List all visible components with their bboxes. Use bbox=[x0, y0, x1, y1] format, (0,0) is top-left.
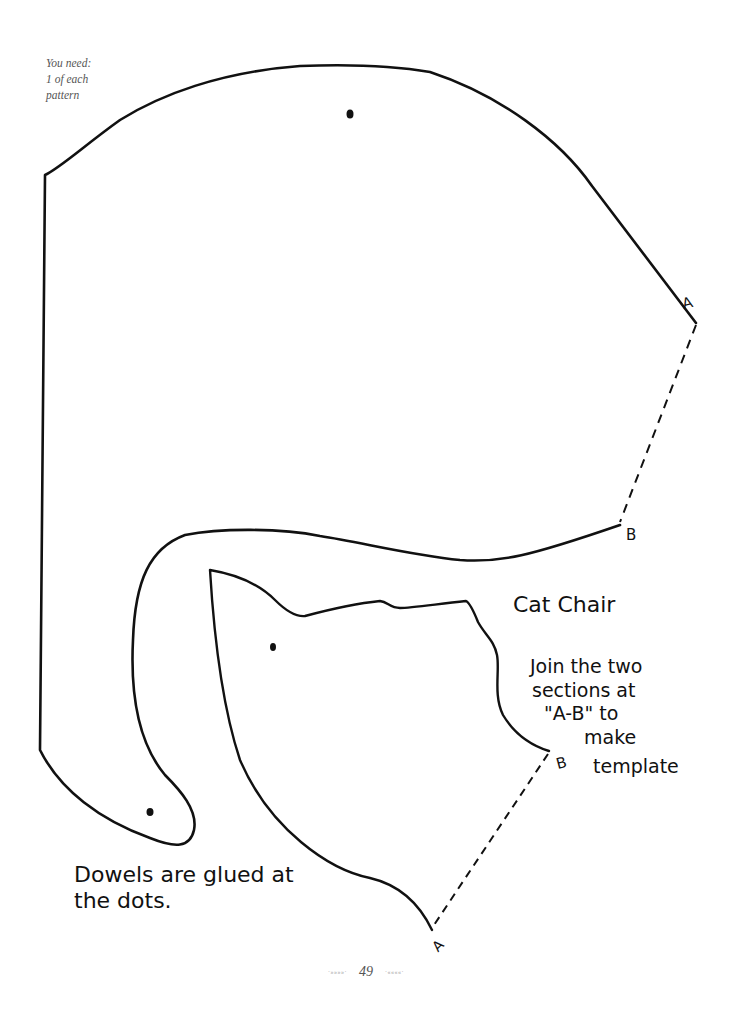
instruction-line: sections at bbox=[532, 679, 635, 701]
page-footer: ·»»»»· 49 ·««««· bbox=[0, 962, 732, 980]
pattern-page: You need: 1 of each pattern A B B A Cat … bbox=[0, 0, 732, 1009]
page-number: 49 bbox=[359, 964, 373, 979]
dowel-dot bbox=[347, 110, 354, 119]
large-join-line bbox=[620, 325, 696, 522]
pattern-drawing: A B B A Cat Chair Join the two sections … bbox=[0, 0, 732, 1009]
instruction-line: make bbox=[584, 726, 636, 748]
dowel-note-line: the dots. bbox=[74, 888, 172, 913]
instruction-line: Join the two bbox=[529, 655, 642, 677]
pattern-title: Cat Chair bbox=[513, 592, 616, 617]
dowel-note-line: Dowels are glued at bbox=[74, 862, 294, 887]
instruction-line: template bbox=[593, 755, 679, 777]
small-join-line bbox=[432, 754, 548, 928]
large-label-a: A bbox=[680, 293, 695, 313]
dowel-dot bbox=[270, 643, 276, 651]
footer-ornament-right: ·««««· bbox=[385, 969, 404, 975]
small-label-a: A bbox=[429, 936, 447, 954]
footer-ornament-left: ·»»»»· bbox=[328, 969, 347, 975]
large-label-b: B bbox=[626, 526, 636, 544]
instruction-line: "A-B" to bbox=[544, 702, 618, 724]
dowel-dot bbox=[147, 808, 154, 816]
small-label-b: B bbox=[554, 753, 569, 773]
